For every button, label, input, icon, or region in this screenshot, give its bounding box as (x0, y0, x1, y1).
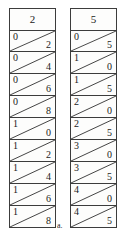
cell-ones-digit: 2 (46, 150, 51, 160)
rod-cell: 1 0 (9, 118, 56, 140)
rod-cell: 2 0 (70, 96, 117, 118)
cell-tens-digit: 4 (74, 207, 79, 217)
rod-cell: 2 5 (70, 118, 117, 140)
cell-tens-digit: 0 (13, 75, 18, 85)
cell-ones-digit: 0 (107, 106, 112, 116)
rod-cell: 0 8 (9, 96, 56, 118)
rod-cell: 0 6 (9, 74, 56, 96)
cell-tens-digit: 2 (74, 119, 79, 129)
cell-tens-digit: 0 (13, 97, 18, 107)
cell-tens-digit: 1 (13, 119, 18, 129)
cell-tens-digit: 1 (13, 207, 18, 217)
cell-tens-digit: 1 (13, 141, 18, 151)
napier-rod-5: 5 0 5 1 0 1 5 2 0 (70, 8, 117, 228)
cell-ones-digit: 0 (107, 62, 112, 72)
rod-cell: 1 8 (9, 206, 56, 228)
cell-ones-digit: 0 (46, 128, 51, 138)
rod-header-digit: 2 (30, 14, 36, 25)
napiers-bones-figure: 2 0 2 0 4 0 6 0 8 (0, 0, 127, 242)
rod-cells-2: 0 2 0 4 0 6 0 8 1 0 (9, 30, 56, 228)
cell-ones-digit: 2 (46, 40, 51, 50)
cell-tens-digit: 0 (13, 32, 18, 42)
rod-header-2: 2 (9, 8, 56, 31)
rod-header-5: 5 (70, 8, 117, 31)
cell-ones-digit: 8 (46, 216, 51, 226)
cell-ones-digit: 6 (46, 84, 51, 94)
cell-tens-digit: 1 (13, 185, 18, 195)
cell-tens-digit: 2 (74, 97, 79, 107)
rod-cells-5: 0 5 1 0 1 5 2 0 2 5 (70, 30, 117, 228)
rod-cell: 1 5 (70, 74, 117, 96)
cell-tens-digit: 3 (74, 141, 79, 151)
figure-label: a. (57, 222, 63, 230)
rod-cell: 1 6 (9, 184, 56, 206)
cell-tens-digit: 1 (74, 53, 79, 63)
cell-ones-digit: 5 (107, 216, 112, 226)
cell-tens-digit: 0 (13, 53, 18, 63)
cell-tens-digit: 3 (74, 163, 79, 173)
cell-ones-digit: 6 (46, 194, 51, 204)
cell-ones-digit: 5 (107, 84, 112, 94)
rod-cell: 4 0 (70, 184, 117, 206)
rod-cell: 0 2 (9, 30, 56, 52)
rod-cell: 0 5 (70, 30, 117, 52)
cell-tens-digit: 0 (74, 32, 79, 42)
cell-tens-digit: 1 (13, 163, 18, 173)
napier-rod-2: 2 0 2 0 4 0 6 0 8 (9, 8, 56, 228)
rod-cell: 1 0 (70, 52, 117, 74)
cell-ones-digit: 5 (107, 172, 112, 182)
cell-ones-digit: 0 (107, 150, 112, 160)
rod-cell: 1 4 (9, 162, 56, 184)
rod-header-digit: 5 (91, 14, 97, 25)
cell-ones-digit: 5 (107, 128, 112, 138)
rod-cell: 0 4 (9, 52, 56, 74)
cell-ones-digit: 5 (107, 40, 112, 50)
cell-ones-digit: 4 (46, 172, 51, 182)
cell-ones-digit: 0 (107, 194, 112, 204)
cell-ones-digit: 4 (46, 62, 51, 72)
cell-tens-digit: 1 (74, 75, 79, 85)
rod-cell: 1 2 (9, 140, 56, 162)
rod-cell: 3 5 (70, 162, 117, 184)
cell-ones-digit: 8 (46, 106, 51, 116)
cell-tens-digit: 4 (74, 185, 79, 195)
rod-cell: 3 0 (70, 140, 117, 162)
rod-cell: 4 5 (70, 206, 117, 228)
